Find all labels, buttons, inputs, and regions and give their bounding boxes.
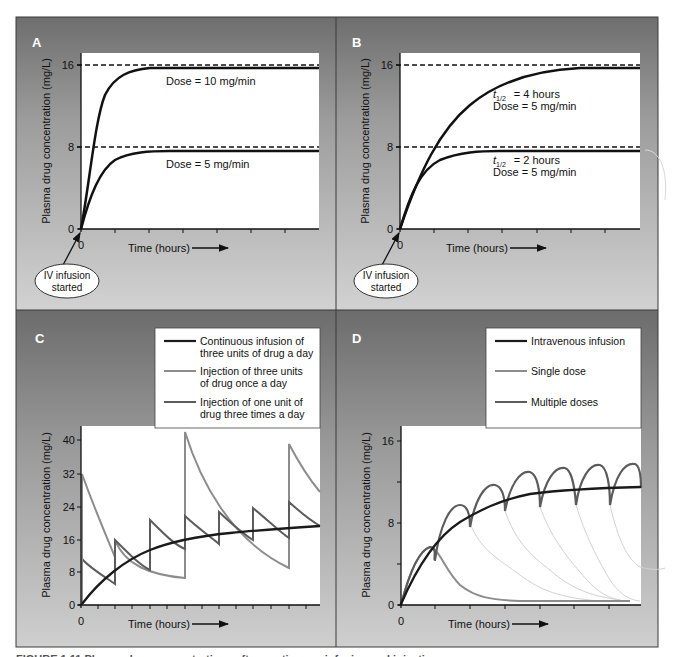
panel-c-legend: Continuous infusion of three units of dr… xyxy=(155,328,320,428)
legend-text-three-times-1: Injection of one unit of xyxy=(200,396,303,408)
panel-c-ytick-8: 8 xyxy=(69,566,75,578)
panel-b-xtick-0: 0 xyxy=(397,239,403,251)
panel-c-ytick-24: 24 xyxy=(63,501,75,513)
annotation-dose-10: Dose = 10 mg/min xyxy=(166,75,256,87)
panel-a-xtick-0: 0 xyxy=(78,239,84,251)
panel-a-label: A xyxy=(32,35,42,50)
panel-b-ytick-16: 16 xyxy=(381,59,393,71)
panel-c-ytick-40: 40 xyxy=(63,434,75,446)
panel-a-ytick-8: 8 xyxy=(68,141,74,153)
panel-b-ylabel: Plasma drug concentration (mg/L) xyxy=(359,58,371,224)
panel-c-ytick-0: 0 xyxy=(69,599,75,611)
legend-text-once-daily-2: of drug once a day xyxy=(200,377,288,389)
panel-d-ytick-8: 8 xyxy=(388,517,394,529)
legend-text-continuous-2: three units of drug a day xyxy=(200,347,314,359)
panel-c-label: C xyxy=(35,331,45,346)
figure-caption: FIGURE 1.11 Plasma drug concentrations a… xyxy=(16,650,661,657)
annotation-dose-top: Dose = 5 mg/min xyxy=(493,100,576,112)
annotation-dose-5: Dose = 5 mg/min xyxy=(166,158,249,170)
panel-d-plot-area xyxy=(401,426,641,605)
panel-a-ytick-0: 0 xyxy=(68,223,74,235)
figure: A 16 8 0 0 Plasma drug concentration (mg… xyxy=(0,0,673,657)
panel-c-xtick-0: 0 xyxy=(78,615,84,627)
panel-d-label: D xyxy=(352,331,361,346)
legend-text-iv-infusion: Intravenous infusion xyxy=(531,335,625,347)
legend-text-once-daily-1: Injection of three units xyxy=(200,365,303,377)
panel-b-callout-line2: started xyxy=(371,282,402,293)
panel-b-ytick-0: 0 xyxy=(387,223,393,235)
panel-d-xlabel: Time (hours) xyxy=(448,618,510,630)
panel-d-ytick-16: 16 xyxy=(382,435,394,447)
panel-b-label: B xyxy=(352,35,361,50)
annotation-dose-bottom: Dose = 5 mg/min xyxy=(493,166,576,178)
legend-text-three-times-2: drug three times a day xyxy=(200,408,305,420)
panel-b-xlabel: Time (hours) xyxy=(446,242,508,254)
panel-a-callout-line1: IV infusion xyxy=(44,270,91,281)
panel-d-xtick-0: 0 xyxy=(398,615,404,627)
panel-c-ylabel: Plasma drug concentration (mg/L) xyxy=(40,432,52,598)
panel-a-callout-line2: started xyxy=(52,282,83,293)
panel-c-xlabel: Time (hours) xyxy=(128,618,190,630)
legend-text-single-dose: Single dose xyxy=(531,365,586,377)
legend-text-continuous-1: Continuous infusion of xyxy=(200,335,304,347)
panel-b-ytick-8: 8 xyxy=(387,141,393,153)
panel-a-xlabel: Time (hours) xyxy=(128,242,190,254)
panel-d-legend: Intravenous infusion Single dose Multipl… xyxy=(486,328,641,428)
legend-text-multiple-doses: Multiple doses xyxy=(531,396,598,408)
panel-b-callout-line1: IV infusion xyxy=(363,270,410,281)
panel-c-plot-area xyxy=(81,426,320,605)
panel-c-ytick-32: 32 xyxy=(63,468,75,480)
panel-c-ytick-16: 16 xyxy=(63,534,75,546)
panel-a-ytick-16: 16 xyxy=(62,59,74,71)
panel-a-ylabel: Plasma drug concentration (mg/L) xyxy=(40,58,52,224)
panel-d-ylabel: Plasma drug concentration (mg/L) xyxy=(360,432,372,598)
panel-d-ytick-0: 0 xyxy=(388,599,394,611)
